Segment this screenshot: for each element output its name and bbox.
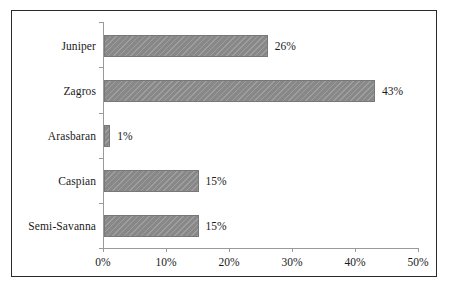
bar-zagros[interactable] (104, 80, 375, 102)
category-label-arasbaran: Arasbaran (0, 129, 96, 143)
x-axis-tick-label-20: 20% (206, 255, 252, 269)
bar-semi-savanna[interactable] (104, 215, 199, 237)
x-axis-tick-label-40: 40% (332, 255, 378, 269)
bar-row-caspian: Caspian 15% (0, 168, 451, 213)
bar-juniper[interactable] (104, 35, 268, 57)
bar-arasbaran[interactable] (104, 125, 110, 147)
bar-value-arasbaran: 1% (117, 129, 132, 143)
category-label-juniper: Juniper (0, 39, 96, 53)
bar-row-arasbaran: Arasbaran 1% (0, 123, 451, 168)
category-axis-tick (99, 22, 103, 23)
x-axis-tick-label-50: 50% (395, 255, 441, 269)
bar-caspian[interactable] (104, 170, 199, 192)
x-axis-tick-label-30: 30% (269, 255, 315, 269)
bar-value-caspian: 15% (206, 174, 227, 188)
bar-value-semi-savanna: 15% (206, 219, 227, 233)
category-label-caspian: Caspian (0, 174, 96, 188)
category-label-zagros: Zagros (0, 84, 96, 98)
x-axis-tick-label-0: 0% (80, 255, 126, 269)
bar-value-zagros: 43% (382, 84, 403, 98)
bar-row-semi-savanna: Semi-Savanna 15% (0, 213, 451, 258)
x-axis-tick-label-10: 10% (143, 255, 189, 269)
bar-row-juniper: Juniper 26% (0, 33, 451, 78)
bar-chart-figure: Juniper 26% Zagros 43% Arasbaran 1% Casp… (0, 0, 451, 287)
category-label-semi-savanna: Semi-Savanna (0, 219, 96, 233)
bar-row-zagros: Zagros 43% (0, 78, 451, 123)
bar-value-juniper: 26% (275, 39, 296, 53)
